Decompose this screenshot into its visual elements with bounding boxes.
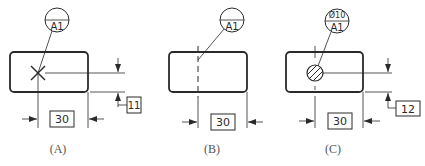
part-rectangle-a — [10, 52, 88, 92]
caption-b: (B) — [204, 142, 220, 156]
dimension-c-horizontal: 30 — [333, 115, 347, 128]
callout-b-bottom: A1 — [225, 21, 238, 32]
callout-c-top: Ø10 — [329, 10, 345, 20]
figure-c: Ø10 A1 30 12 (C) — [286, 9, 420, 156]
datum-target-callout-c: Ø10 A1 — [318, 9, 349, 66]
callout-a-bottom: A1 — [50, 21, 63, 32]
part-rectangle-b — [169, 52, 247, 92]
datum-target-callout-a: A1 — [38, 8, 69, 73]
caption-a: (A) — [50, 142, 67, 156]
dimension-c-vertical: 12 — [401, 103, 415, 116]
figure-a: A1 30 11 (A) — [10, 8, 141, 156]
caption-c: (C) — [325, 142, 341, 156]
part-rectangle-c — [286, 52, 363, 92]
figure-b: A1 30 (B) — [169, 8, 263, 156]
dimension-a-horizontal: 30 — [55, 113, 69, 126]
dimension-a-vertical: 11 — [128, 100, 141, 111]
callout-c-bottom: A1 — [330, 22, 343, 33]
dimension-b-horizontal: 30 — [216, 116, 230, 129]
